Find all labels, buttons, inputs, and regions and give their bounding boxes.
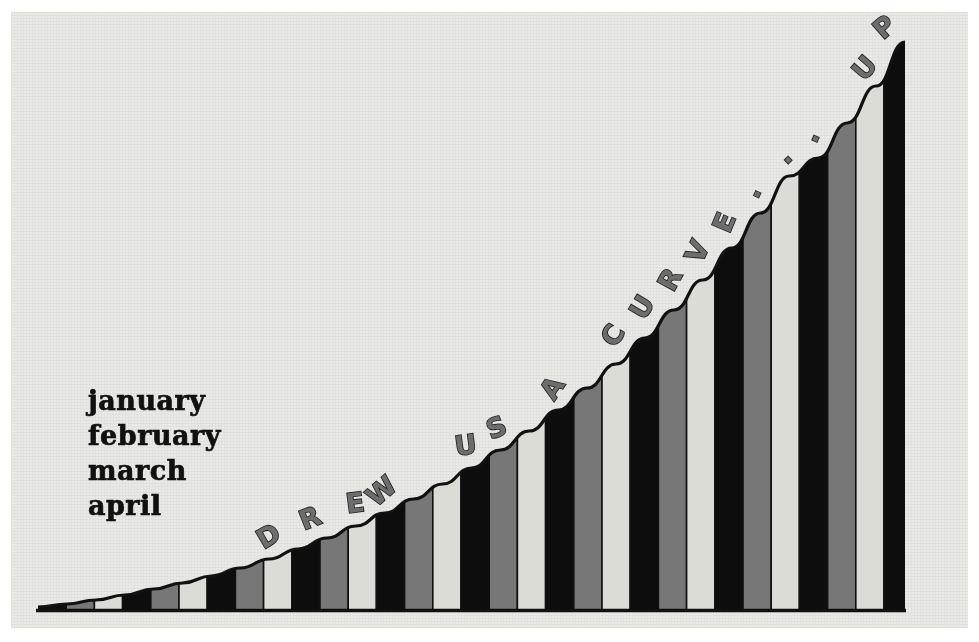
caption-letter: A bbox=[533, 370, 571, 405]
bar bbox=[771, 28, 799, 610]
bar bbox=[856, 28, 884, 610]
caption-letter: R bbox=[295, 499, 327, 536]
bar bbox=[687, 28, 715, 610]
caption-letter: . bbox=[735, 180, 768, 203]
bar bbox=[433, 28, 461, 610]
caption-letter: S bbox=[482, 409, 512, 445]
bar bbox=[376, 28, 404, 610]
caption-letter: C bbox=[594, 318, 631, 352]
caption-letter: U bbox=[453, 428, 480, 462]
caption-letter: U bbox=[845, 49, 883, 87]
caption-letter: W bbox=[360, 469, 404, 513]
caption-letter: R bbox=[651, 262, 689, 296]
bar bbox=[799, 28, 827, 610]
caption-letter: . bbox=[769, 140, 799, 170]
bar bbox=[884, 28, 905, 610]
bar bbox=[405, 28, 433, 610]
bar bbox=[828, 28, 856, 610]
caption-letter: D bbox=[251, 516, 287, 555]
month-item-april: april bbox=[88, 488, 221, 523]
bar bbox=[461, 28, 489, 610]
caption-letter: U bbox=[623, 289, 661, 325]
month-item-february: february bbox=[88, 418, 221, 453]
caption-letter: V bbox=[679, 234, 716, 267]
bar bbox=[517, 28, 545, 610]
bar bbox=[574, 28, 602, 610]
month-item-january: january bbox=[88, 383, 221, 418]
bar bbox=[38, 28, 66, 610]
bar bbox=[348, 28, 376, 610]
bar bbox=[489, 28, 517, 610]
month-list: january february march april bbox=[88, 383, 221, 523]
exponential-bar-chart: DREWUSACURVE...UP bbox=[0, 0, 979, 642]
poster-canvas: DREWUSACURVE...UP january february march… bbox=[0, 0, 979, 642]
bar bbox=[715, 28, 743, 610]
bar bbox=[546, 28, 574, 610]
month-item-march: march bbox=[88, 453, 221, 488]
caption-letter: . bbox=[793, 124, 826, 147]
bar bbox=[743, 28, 771, 610]
caption-letter: E bbox=[706, 207, 742, 237]
caption-letter: P bbox=[866, 8, 902, 45]
